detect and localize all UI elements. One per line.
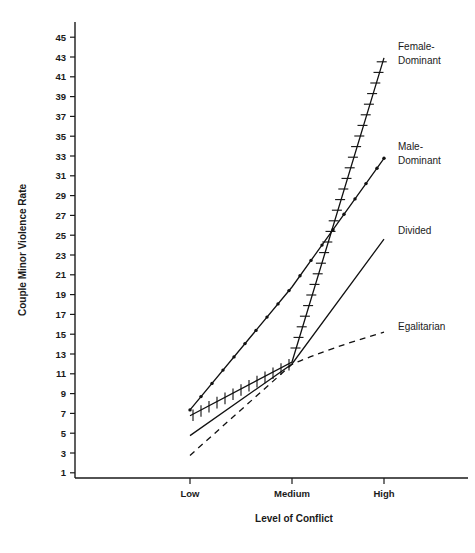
y-tick-label-1: 1	[61, 467, 67, 478]
y-tick-label-5: 5	[61, 428, 67, 439]
y-tick-label-31: 31	[55, 170, 66, 181]
y-tick-marks	[70, 37, 75, 473]
y-tick-label-15: 15	[55, 329, 66, 340]
y-tick-label-29: 29	[55, 190, 66, 201]
x-tick-label-medium: Medium	[274, 488, 310, 499]
y-tick-label-27: 27	[55, 210, 66, 221]
series-label-male-dominant-line2: Dominant	[398, 155, 441, 166]
y-tick-label-17: 17	[55, 309, 66, 320]
chart-container: 1 3 5 7 9 11 13 15 17 19 21 23 25 27 29 …	[0, 0, 475, 553]
y-tick-label-45: 45	[55, 32, 66, 43]
y-tick-label-33: 33	[55, 151, 66, 162]
y-tick-label-9: 9	[61, 388, 66, 399]
series-label-male-dominant-line1: Male-	[398, 141, 423, 152]
series-label-female-dominant-line1: Female-	[398, 41, 435, 52]
series-line-female-dominant	[190, 58, 384, 416]
y-axis-title: Couple Minor Violence Rate	[17, 184, 28, 316]
series-line-divided	[190, 239, 384, 436]
y-tick-label-43: 43	[55, 52, 66, 63]
y-tick-label-3: 3	[61, 448, 66, 459]
x-tick-label-low: Low	[181, 488, 201, 499]
y-tick-label-21: 21	[55, 269, 66, 280]
y-tick-label-7: 7	[61, 408, 66, 419]
series-label-divided: Divided	[398, 225, 431, 236]
series-label-egalitarian: Egalitarian	[398, 321, 445, 332]
series-markers-female-dominant	[193, 62, 387, 421]
series-markers-male-dominant	[188, 157, 385, 412]
y-tick-label-35: 35	[55, 131, 66, 142]
y-tick-label-19: 19	[55, 289, 66, 300]
x-axis-title: Level of Conflict	[255, 513, 333, 524]
x-tick-label-high: High	[373, 488, 394, 499]
y-tick-label-37: 37	[55, 111, 66, 122]
y-tick-label-41: 41	[55, 71, 66, 82]
y-tick-label-23: 23	[55, 250, 66, 261]
series-line-male-dominant	[190, 158, 384, 410]
y-tick-label-13: 13	[55, 349, 66, 360]
x-tick-marks	[190, 478, 384, 484]
y-tick-label-25: 25	[55, 230, 66, 241]
y-tick-label-39: 39	[55, 91, 66, 102]
y-tick-label-11: 11	[56, 368, 67, 379]
line-chart-svg: 1 3 5 7 9 11 13 15 17 19 21 23 25 27 29 …	[0, 0, 475, 553]
series-label-female-dominant-line2: Dominant	[398, 55, 441, 66]
series-line-egalitarian	[190, 332, 384, 455]
